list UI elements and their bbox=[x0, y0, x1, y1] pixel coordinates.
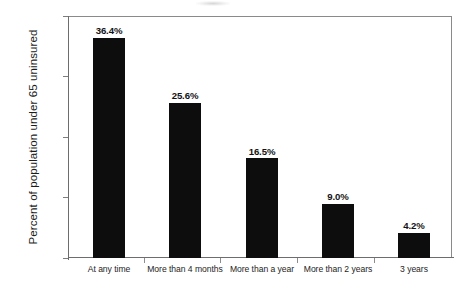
bar-more-than-a-year bbox=[246, 158, 278, 258]
bar-3-years bbox=[398, 233, 430, 258]
bar-more-than-4-months bbox=[169, 103, 201, 258]
bar-value-at-any-time: 36.4% bbox=[79, 25, 139, 36]
bar-more-than-2-years bbox=[322, 204, 354, 258]
x-tick-mark-4 bbox=[374, 258, 375, 263]
x-tick-mark-1 bbox=[144, 258, 145, 263]
x-axis-label-more-than-2-years: More than 2 years bbox=[290, 264, 386, 274]
bar-value-3-years: 4.2% bbox=[384, 220, 444, 231]
x-axis-label-3-years: 3 years bbox=[384, 264, 444, 274]
x-tick-mark-3 bbox=[297, 258, 298, 263]
bar-value-more-than-2-years: 9.0% bbox=[308, 191, 368, 202]
x-tick-mark-2 bbox=[220, 258, 221, 263]
bar-at-any-time bbox=[93, 38, 125, 258]
bar-value-more-than-a-year: 16.5% bbox=[232, 146, 292, 157]
y-axis-title: Percent of population under 65 uninsured bbox=[22, 16, 44, 258]
bar-value-more-than-4-months: 25.6% bbox=[155, 90, 215, 101]
scan-artifact bbox=[196, 1, 230, 6]
bar-chart-figure: Percent of population under 65 uninsured… bbox=[0, 0, 467, 293]
y-axis-line bbox=[68, 16, 69, 260]
